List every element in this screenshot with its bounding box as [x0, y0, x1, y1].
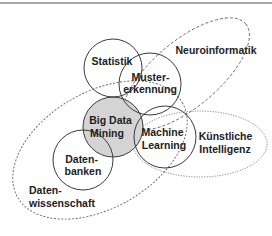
- label-statistik: Statistik: [92, 55, 133, 67]
- label-neuroinformatik: Neuroinformatik: [175, 44, 256, 56]
- diagram-frame: Statistik Muster- erkennung Big Data Min…: [0, 0, 272, 236]
- label-datenwissenschaft: Daten- wissenschaft: [28, 184, 95, 209]
- venn-diagram: Statistik Muster- erkennung Big Data Min…: [0, 0, 272, 236]
- label-kuenstliche-intelligenz: Künstliche Intelligenz: [199, 130, 256, 155]
- label-datenbanken: Daten- banken: [65, 153, 102, 177]
- label-mustererkennung: Muster- erkennung: [123, 71, 177, 95]
- label-machine-learning: Machine Learning: [142, 126, 187, 151]
